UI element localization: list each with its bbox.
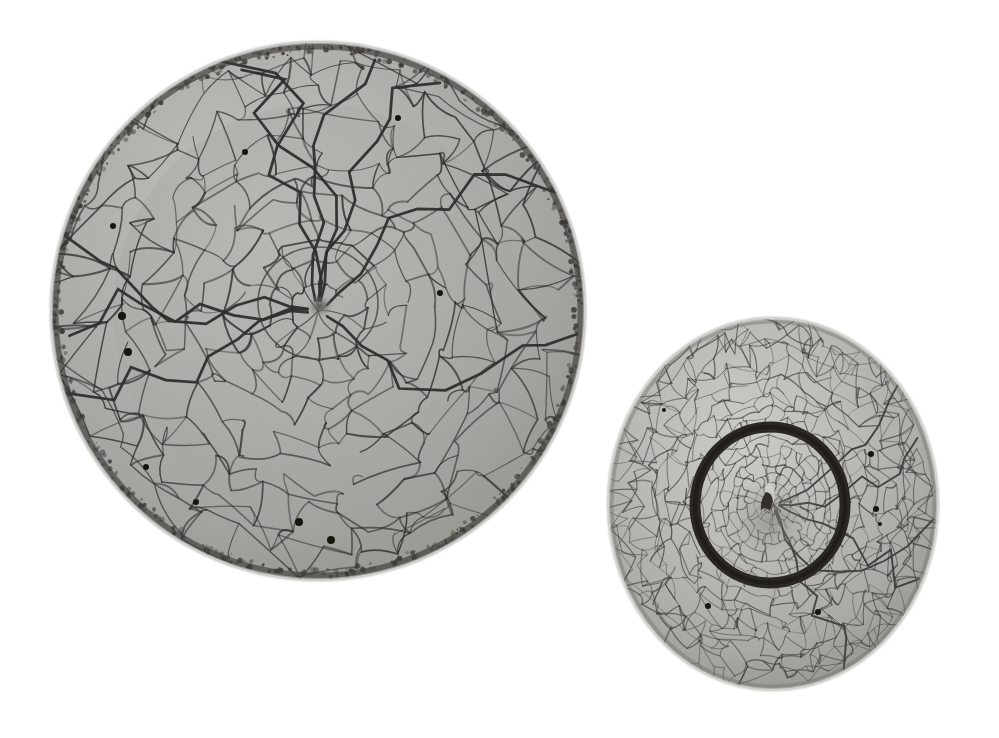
ceramics-photograph	[0, 0, 999, 738]
photograph-canvas: Two crackle-glazed ceramic vessels on a …	[0, 0, 999, 738]
